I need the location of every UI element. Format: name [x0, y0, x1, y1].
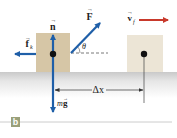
- velocity-label-symbol: v: [128, 13, 133, 23]
- block-final-center-dot: [141, 51, 147, 57]
- physics-free-body-diagram: Δx θ → n → F → f k m → g → v f: [0, 0, 177, 138]
- normal-label: → n: [50, 17, 57, 32]
- friction-label: → f k: [25, 35, 33, 50]
- part-b-badge: b: [11, 117, 20, 127]
- friction-label-subscript: k: [30, 44, 33, 50]
- displacement-label: Δx: [93, 84, 104, 95]
- normal-label-symbol: n: [50, 21, 56, 32]
- velocity-label-subscript: f: [133, 19, 136, 25]
- gravity-label-symbol: g: [63, 98, 68, 108]
- applied-force-label: → F: [87, 6, 94, 22]
- block-initial-center-dot: [50, 51, 56, 57]
- ground-surface: [0, 72, 177, 98]
- angle-theta-label: θ: [82, 42, 86, 51]
- velocity-label: → v f: [127, 9, 136, 25]
- applied-label-symbol: F: [87, 11, 93, 22]
